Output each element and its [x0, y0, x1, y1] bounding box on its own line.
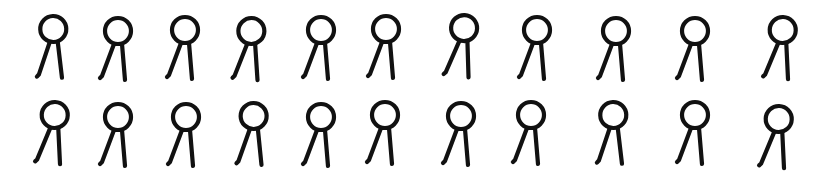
- glyph-left-leg: [35, 127, 50, 161]
- ring-with-two-legs-icon: [31, 99, 77, 172]
- ring-with-two-legs-icon: [594, 16, 638, 88]
- glyph-right-leg: [57, 128, 61, 164]
- ring-with-two-legs-icon: [228, 16, 273, 89]
- ring-with-two-legs-icon: [439, 101, 483, 173]
- glyph-head: [518, 102, 544, 128]
- ring-with-two-legs-icon: [591, 99, 637, 172]
- glyph-head: [105, 18, 131, 44]
- glyph-head: [41, 102, 68, 129]
- glyph-right-leg: [699, 44, 702, 80]
- glyph-left-leg: [519, 43, 533, 77]
- sketch-canvas: [0, 0, 827, 173]
- glyph-right-leg: [325, 43, 328, 79]
- glyph-left-leg: [677, 44, 691, 78]
- glyph-right-leg: [122, 44, 125, 80]
- ring-with-two-legs-icon: [759, 14, 805, 87]
- ring-with-two-legs-icon: [515, 15, 559, 87]
- glyph-head: [524, 17, 550, 43]
- glyph-right-leg: [258, 129, 262, 165]
- glyph-head: [372, 102, 398, 128]
- glyph-right-leg: [190, 130, 193, 166]
- glyph-left-leg: [236, 129, 251, 163]
- glyph-left-leg: [303, 130, 317, 164]
- glyph-right-leg: [541, 43, 544, 79]
- glyph-right-leg: [781, 132, 785, 168]
- ring-with-two-legs-icon: [755, 103, 801, 173]
- glyph-head: [448, 103, 474, 129]
- ring-with-two-legs-icon: [164, 102, 208, 173]
- glyph-left-leg: [763, 42, 778, 76]
- glyph-left-leg: [759, 131, 774, 165]
- ring-with-two-legs-icon: [363, 100, 407, 172]
- glyph-head: [769, 17, 796, 44]
- ring-with-two-legs-icon: [299, 102, 343, 173]
- glyph-right-leg: [389, 128, 392, 164]
- glyph-head: [682, 102, 708, 128]
- ring-with-two-legs-icon: [673, 16, 717, 88]
- glyph-right-leg: [618, 128, 622, 164]
- glyph-head: [172, 17, 198, 43]
- glyph-head: [450, 14, 477, 41]
- glyph-right-leg: [465, 129, 468, 165]
- glyph-right-leg: [535, 128, 538, 164]
- glyph-left-leg: [303, 43, 317, 77]
- glyph-head: [600, 102, 627, 129]
- glyph-right-leg: [699, 128, 702, 164]
- glyph-right-leg: [466, 41, 471, 77]
- ring-with-two-legs-icon: [96, 16, 140, 88]
- ring-with-two-legs-icon: [96, 102, 140, 173]
- glyph-left-leg: [443, 129, 457, 163]
- glyph-head: [105, 104, 131, 130]
- glyph-right-leg: [390, 42, 393, 78]
- glyph-right-leg: [785, 43, 789, 79]
- glyph-head: [308, 104, 334, 130]
- glyph-head: [238, 18, 264, 44]
- glyph-left-leg: [36, 42, 51, 76]
- glyph-left-leg: [367, 128, 381, 162]
- glyph-right-leg: [620, 44, 623, 80]
- glyph-right-leg: [122, 130, 125, 166]
- glyph-left-leg: [168, 130, 182, 164]
- glyph-head: [682, 18, 708, 44]
- glyph-head: [603, 18, 629, 44]
- ring-with-two-legs-icon: [31, 13, 77, 86]
- glyph-head: [373, 16, 399, 42]
- ring-with-two-legs-icon: [299, 15, 343, 87]
- glyph-right-leg: [189, 43, 192, 79]
- ring-with-two-legs-icon: [673, 100, 717, 172]
- glyph-left-leg: [100, 130, 114, 164]
- glyph-head: [173, 104, 199, 130]
- glyph-head: [308, 17, 334, 43]
- glyph-head: [765, 106, 792, 133]
- ring-with-two-legs-icon: [364, 14, 408, 86]
- glyph-head: [240, 103, 266, 129]
- glyph-left-leg: [596, 128, 611, 162]
- glyph-left-leg: [513, 128, 527, 162]
- glyph-left-leg: [167, 43, 181, 77]
- glyph-head: [40, 16, 67, 43]
- glyph-left-leg: [368, 42, 382, 76]
- glyph-left-leg: [100, 44, 114, 78]
- glyph-left-leg: [444, 40, 460, 75]
- ring-with-two-legs-icon: [439, 12, 487, 86]
- ring-with-two-legs-icon: [163, 15, 207, 87]
- glyph-right-leg: [58, 42, 62, 78]
- glyph-right-leg: [325, 130, 328, 166]
- glyph-left-leg: [233, 44, 248, 78]
- glyph-left-leg: [677, 128, 691, 162]
- ring-with-two-legs-icon: [231, 101, 276, 173]
- glyph-left-leg: [598, 44, 612, 78]
- ring-with-two-legs-icon: [509, 100, 553, 172]
- glyph-right-leg: [255, 44, 259, 80]
